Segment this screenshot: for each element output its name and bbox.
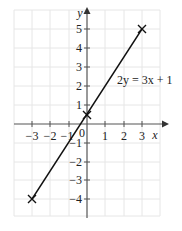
svg-text:y: y — [76, 6, 83, 20]
svg-text:3: 3 — [76, 60, 82, 74]
line-graph: −3 −2 −1 0 1 2 3 x y 5 4 3 2 1 −1 −2 −3 … — [0, 0, 182, 231]
y-tick-labels: y 5 4 3 2 1 −1 −2 −3 −4 — [69, 6, 83, 206]
svg-text:2: 2 — [76, 79, 82, 93]
svg-text:5: 5 — [76, 22, 82, 36]
equation-label: 2y = 3x + 1 — [117, 73, 173, 87]
x-axis-arrow-icon — [162, 121, 169, 128]
svg-text:−2: −2 — [44, 129, 57, 143]
svg-text:x: x — [151, 128, 158, 142]
svg-text:2: 2 — [121, 129, 127, 143]
svg-text:3: 3 — [139, 129, 145, 143]
svg-text:−3: −3 — [26, 129, 39, 143]
svg-text:1: 1 — [76, 98, 82, 112]
svg-text:−3: −3 — [69, 173, 82, 187]
svg-text:4: 4 — [76, 41, 82, 55]
svg-text:1: 1 — [102, 129, 108, 143]
svg-text:−2: −2 — [69, 155, 82, 169]
x-tick-labels: −3 −2 −1 0 1 2 3 x — [26, 126, 159, 143]
svg-text:−4: −4 — [69, 192, 82, 206]
